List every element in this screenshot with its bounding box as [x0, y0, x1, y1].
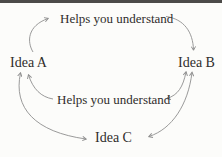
- edge-label-top: Helps you understand: [60, 12, 173, 25]
- edge-label-middle: Helps you understand: [57, 93, 170, 106]
- arrow-middle-label-to-a: [29, 75, 54, 99]
- node-idea-c: Idea C: [95, 131, 132, 145]
- node-idea-b: Idea B: [178, 56, 215, 70]
- edges-group: [19, 17, 193, 140]
- node-idea-a: Idea A: [10, 56, 47, 70]
- arrow-a-to-top-label: [30, 19, 48, 53]
- concept-diagram: Helps you understand Idea A Idea B Helps…: [0, 0, 222, 157]
